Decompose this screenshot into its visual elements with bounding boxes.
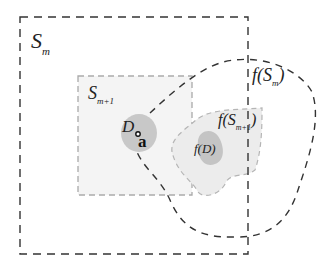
label-point-a: a bbox=[138, 133, 147, 150]
label-f-s-m1-sub: m+1 bbox=[236, 123, 251, 132]
label-s-m: Sm bbox=[31, 30, 50, 57]
label-f-d: f(D) bbox=[194, 142, 216, 155]
label-d: D bbox=[122, 118, 134, 135]
label-s-m1-sub: m+1 bbox=[97, 96, 114, 106]
label-f-s-m1-post: ) bbox=[251, 111, 256, 128]
label-f-s-m-pre: f(S bbox=[252, 65, 272, 85]
label-s-m1-base: S bbox=[88, 83, 97, 103]
label-f-s-m: f(Sm) bbox=[252, 66, 285, 88]
label-s-m-base: S bbox=[31, 28, 42, 53]
label-f-s-m-plus-1: f(Sm+1) bbox=[218, 112, 256, 132]
label-s-m-sub: m bbox=[42, 45, 50, 57]
label-f-s-m1-pre: f(S bbox=[218, 111, 236, 128]
label-f-s-m-post: ) bbox=[279, 65, 285, 85]
label-s-m-plus-1: Sm+1 bbox=[88, 84, 114, 106]
